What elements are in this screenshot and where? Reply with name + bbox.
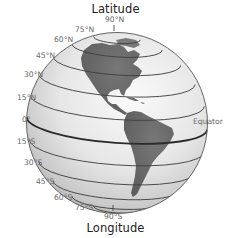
label-75n: 75°N	[75, 25, 94, 34]
diagram-subtitle: Longitude	[0, 221, 231, 235]
label-15n: 15°N	[17, 93, 36, 102]
label-45n: 45°N	[36, 51, 55, 60]
label-equator: Equator	[193, 117, 223, 126]
label-75s: 75°S	[75, 203, 93, 212]
label-15s: 15°S	[17, 137, 35, 146]
label-60n: 60°N	[54, 35, 73, 44]
label-30s: 30°S	[24, 158, 42, 167]
label-45s: 45°S	[36, 177, 54, 186]
label-60s: 60°S	[54, 193, 72, 202]
label-30n: 30°N	[24, 70, 43, 79]
label-90s: 90°S	[104, 212, 122, 221]
globe-diagram: Latitude	[0, 0, 231, 238]
label-0: 0°	[22, 115, 31, 124]
label-90n: 90°N	[105, 15, 124, 24]
